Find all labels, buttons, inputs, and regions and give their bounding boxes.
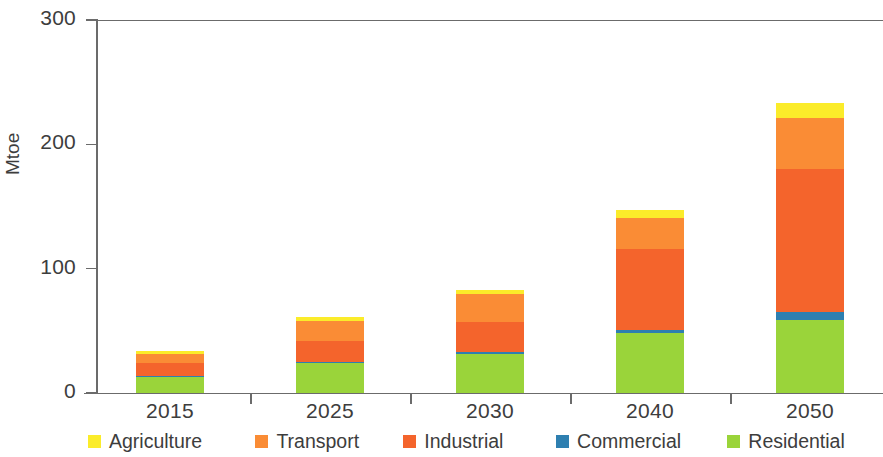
bar-2025[interactable]: [296, 317, 364, 393]
legend-item-transport[interactable]: Transport: [255, 428, 403, 454]
bar-segment-2025-industrial[interactable]: [296, 341, 364, 362]
bar-segment-2050-industrial[interactable]: [776, 169, 844, 312]
x-tick-divider-3: [730, 393, 732, 404]
legend-swatch-icon-agriculture: [88, 435, 101, 448]
bar-segment-2015-residential[interactable]: [136, 377, 204, 393]
bar-segment-2015-industrial[interactable]: [136, 363, 204, 375]
bar-segment-2050-residential[interactable]: [776, 320, 844, 393]
bar-segment-2025-transport[interactable]: [296, 321, 364, 341]
bar-segment-2015-commercial[interactable]: [136, 376, 204, 377]
plot-area: [96, 20, 883, 393]
bar-segment-2025-commercial[interactable]: [296, 362, 364, 363]
legend-swatch-icon-industrial: [403, 435, 416, 448]
bar-segment-2030-residential[interactable]: [456, 354, 524, 393]
bar-segment-2050-transport[interactable]: [776, 118, 844, 169]
legend-swatch-icon-commercial: [556, 435, 569, 448]
legend-label-residential: Residential: [748, 430, 844, 453]
bar-segment-2040-commercial[interactable]: [616, 330, 684, 334]
x-tick-label-2025: 2025: [270, 399, 390, 423]
bar-segment-2030-industrial[interactable]: [456, 322, 524, 352]
bar-segment-2040-transport[interactable]: [616, 218, 684, 249]
bar-segment-2025-residential[interactable]: [296, 363, 364, 393]
legend-label-industrial: Industrial: [424, 430, 503, 453]
legend-label-transport: Transport: [276, 430, 359, 453]
bar-segment-2050-agriculture[interactable]: [776, 103, 844, 118]
legend-swatch-icon-transport: [255, 435, 268, 448]
legend-swatch-icon-residential: [727, 435, 740, 448]
bar-segment-2050-commercial[interactable]: [776, 312, 844, 319]
bar-segment-2025-agriculture[interactable]: [296, 317, 364, 321]
bar-2015[interactable]: [136, 351, 204, 393]
y-tick-label-300: 300: [14, 6, 76, 30]
bar-segment-2030-transport[interactable]: [456, 294, 524, 323]
x-tick-label-2050: 2050: [750, 399, 870, 423]
bar-segment-2040-industrial[interactable]: [616, 249, 684, 330]
stacked-bar-chart: Mtoe 0100200300 20152025203020402050 Agr…: [0, 0, 883, 457]
legend-label-agriculture: Agriculture: [109, 430, 202, 453]
bar-2040[interactable]: [616, 210, 684, 393]
legend-item-commercial[interactable]: Commercial: [556, 428, 727, 454]
x-tick-label-2030: 2030: [430, 399, 550, 423]
x-tick-label-2015: 2015: [110, 399, 230, 423]
legend-item-residential[interactable]: Residential: [727, 428, 883, 454]
legend-label-commercial: Commercial: [577, 430, 681, 453]
y-axis-label-wrap: Mtoe: [2, 175, 44, 197]
y-tick-label-100: 100: [14, 255, 76, 279]
y-tick-label-0: 0: [14, 379, 76, 403]
legend-item-industrial[interactable]: Industrial: [403, 428, 556, 454]
bar-segment-2015-transport[interactable]: [136, 354, 204, 363]
chart-legend: AgricultureTransportIndustrialCommercial…: [88, 428, 883, 454]
bar-segment-2015-agriculture[interactable]: [136, 351, 204, 355]
bar-segment-2030-commercial[interactable]: [456, 352, 524, 354]
x-tick-divider-0: [250, 393, 252, 404]
bar-segment-2030-agriculture[interactable]: [456, 290, 524, 294]
y-tick-label-200: 200: [14, 130, 76, 154]
legend-item-agriculture[interactable]: Agriculture: [88, 428, 255, 454]
bar-2030[interactable]: [456, 290, 524, 393]
x-tick-label-2040: 2040: [590, 399, 710, 423]
bar-2050[interactable]: [776, 103, 844, 393]
x-tick-divider-2: [570, 393, 572, 404]
bar-segment-2040-agriculture[interactable]: [616, 210, 684, 217]
x-tick-divider-1: [410, 393, 412, 404]
bar-segment-2040-residential[interactable]: [616, 333, 684, 393]
